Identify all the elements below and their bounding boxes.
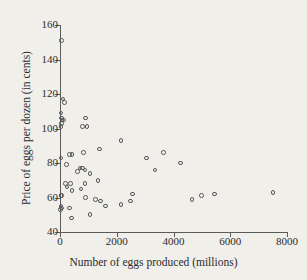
data-point	[68, 181, 73, 186]
data-point	[75, 169, 80, 174]
x-axis-title: Number of eggs produced (millions)	[0, 256, 307, 268]
plot-data-area	[0, 0, 307, 280]
data-point	[58, 207, 63, 212]
data-point	[65, 185, 70, 190]
data-point	[83, 181, 88, 186]
data-point	[144, 156, 149, 161]
data-point	[83, 168, 88, 173]
data-point	[64, 162, 69, 167]
data-point	[130, 192, 135, 197]
data-point	[59, 156, 64, 161]
data-point	[96, 178, 101, 183]
data-point	[178, 161, 183, 166]
y-axis-title: Price of eggs per dozen (in cents)	[20, 28, 32, 228]
data-point	[59, 38, 64, 43]
data-point	[153, 168, 158, 173]
data-point	[103, 204, 108, 209]
data-point	[85, 124, 90, 129]
data-point	[59, 193, 64, 198]
data-point	[88, 212, 93, 217]
data-point	[98, 199, 103, 204]
data-point	[212, 192, 217, 197]
data-point	[70, 188, 75, 193]
data-point	[81, 150, 86, 155]
data-point	[59, 111, 64, 116]
data-point	[97, 147, 102, 152]
data-point	[88, 171, 93, 176]
data-point	[67, 206, 72, 211]
data-point	[83, 195, 88, 200]
data-point	[62, 100, 67, 105]
data-point	[119, 202, 124, 207]
data-point	[59, 124, 64, 129]
data-point	[69, 216, 74, 221]
data-point	[70, 152, 75, 157]
data-point	[199, 193, 204, 198]
data-point	[271, 190, 276, 195]
data-point	[83, 116, 88, 121]
data-point	[119, 138, 124, 143]
data-point	[190, 197, 195, 202]
scatter-plot-figure: 406080100120140160 02000400060008000 Pri…	[0, 0, 307, 280]
data-point	[161, 150, 166, 155]
data-point	[79, 187, 84, 192]
data-point	[128, 199, 133, 204]
